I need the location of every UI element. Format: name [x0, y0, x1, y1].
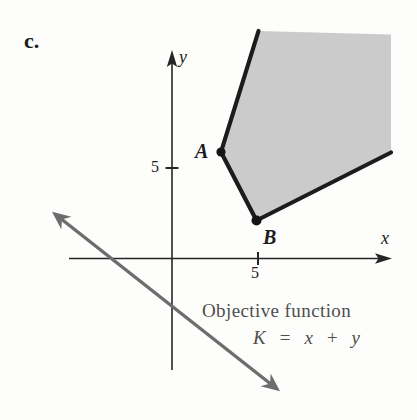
objective-function-equation: K = x + y [253, 328, 361, 347]
point-b-label: B [263, 227, 276, 247]
y-tick-label: 5 [151, 159, 159, 175]
x-tick-label: 5 [251, 265, 259, 281]
point-b-dot [252, 216, 262, 226]
objective-function-caption: Objective function [202, 301, 351, 320]
textbook-figure-panel-c: c. y x 5 5 A B Objective function K = x … [0, 0, 417, 420]
feasible-region [221, 31, 391, 221]
coordinate-plane-graphic [0, 0, 417, 420]
point-a-label: A [195, 141, 208, 161]
x-axis-label: x [381, 229, 389, 247]
panel-label: c. [24, 30, 39, 52]
point-a-dot [216, 147, 225, 156]
y-axis-label: y [179, 48, 187, 66]
